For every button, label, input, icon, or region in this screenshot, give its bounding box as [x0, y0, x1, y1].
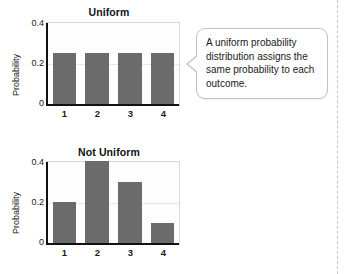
x-tick-uniform-3: 3 [114, 108, 147, 119]
bar-slot [48, 23, 81, 104]
bar-slot [81, 162, 114, 243]
y-tick-not-uniform-1: 0.2 [14, 197, 44, 207]
bar-not-uniform-4 [151, 223, 175, 244]
y-axis-line-not-uniform [46, 162, 48, 245]
y-axis-label-uniform: Probability [11, 45, 21, 105]
y-tick-not-uniform-2: 0 [14, 237, 44, 247]
plot-area-not-uniform [46, 161, 180, 245]
x-axis-line-not-uniform [46, 243, 179, 245]
x-tick-not-uniform-3: 3 [114, 247, 147, 258]
bar-slot [81, 23, 114, 104]
y-tick-uniform-1: 0.2 [14, 58, 44, 68]
bar-uniform-4 [151, 53, 175, 104]
bar-uniform-1 [53, 53, 77, 104]
x-tick-uniform-1: 1 [48, 108, 81, 119]
x-tick-uniform-4: 4 [147, 108, 180, 119]
bar-not-uniform-1 [53, 202, 77, 243]
plot-area-uniform [46, 22, 180, 106]
x-tick-not-uniform-2: 2 [81, 247, 114, 258]
bar-not-uniform-3 [118, 182, 142, 244]
bar-slot [48, 162, 81, 243]
x-tick-group-not-uniform: 1234 [48, 247, 180, 258]
callout-text: A uniform probability distribution assig… [206, 36, 319, 90]
y-tick-uniform-2: 0 [14, 98, 44, 108]
callout-tail-fill-icon [188, 56, 198, 72]
bar-slot [114, 162, 147, 243]
bar-uniform-3 [118, 53, 142, 104]
bar-not-uniform-2 [85, 161, 109, 243]
figure-not-uniform: Not Uniform Probability 0.4 0.2 0 1234 [6, 146, 186, 268]
bar-slot [146, 162, 179, 243]
chart-title-not-uniform: Not Uniform [36, 146, 182, 158]
x-tick-not-uniform-1: 1 [48, 247, 81, 258]
y-tick-not-uniform-0: 0.4 [14, 157, 44, 167]
x-tick-uniform-2: 2 [81, 108, 114, 119]
x-axis-line-uniform [46, 104, 179, 106]
figure-uniform: Uniform Probability 0.4 0.2 0 1234 [6, 6, 186, 134]
y-axis-line-uniform [46, 23, 48, 106]
callout-box: A uniform probability distribution assig… [196, 28, 328, 99]
page-edge-dashed-rule [337, 0, 338, 274]
x-tick-group-uniform: 1234 [48, 108, 180, 119]
y-tick-uniform-0: 0.4 [14, 18, 44, 28]
x-tick-not-uniform-4: 4 [147, 247, 180, 258]
bar-slot [114, 23, 147, 104]
bar-uniform-2 [85, 53, 109, 104]
bar-slot [146, 23, 179, 104]
y-axis-label-not-uniform: Probability [11, 183, 21, 243]
chart-title-uniform: Uniform [36, 6, 182, 18]
bar-group-uniform [48, 23, 179, 104]
bar-group-not-uniform [48, 162, 179, 243]
